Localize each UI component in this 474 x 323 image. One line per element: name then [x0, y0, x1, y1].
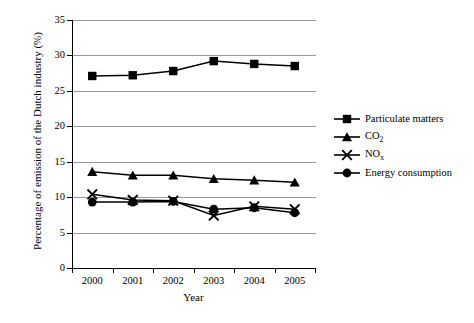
data-point-filled-square [291, 62, 299, 70]
data-point-filled-circle [128, 198, 137, 207]
x-axis-tick [194, 268, 195, 273]
legend-item[interactable]: Particulate matters [333, 110, 452, 128]
y-axis-tick-label: 30 [55, 50, 66, 61]
data-point-filled-square [169, 67, 177, 75]
emission-line-chart: Percentage of emission of the Dutch indu… [0, 0, 474, 323]
legend-marker-filled-circle [333, 165, 361, 181]
data-point-filled-circle [169, 197, 178, 206]
x-axis-tick-label: 2002 [163, 276, 184, 287]
x-axis-tick-label: 2004 [244, 276, 265, 287]
legend-item-label: Energy consumption [365, 168, 452, 179]
series-line [92, 172, 295, 183]
x-axis-title: Year [72, 291, 315, 303]
legend-item[interactable]: CO2 [333, 128, 452, 146]
data-point-filled-square [88, 72, 96, 80]
legend-marker-cross-x [333, 147, 361, 163]
x-axis-tick-label: 2005 [284, 276, 305, 287]
x-axis-tick-label: 2000 [82, 276, 103, 287]
data-point-filled-square [250, 60, 258, 68]
x-axis-tick [113, 268, 114, 273]
chart-legend: Particulate mattersCO2NOxEnergy consumpt… [333, 110, 452, 182]
legend-item-label: CO2 [365, 131, 383, 144]
x-axis-tick [234, 268, 235, 273]
x-axis-tick [72, 268, 73, 273]
x-axis-tick [275, 268, 276, 273]
data-point-filled-square [210, 57, 218, 65]
y-axis-tick-label: 15 [55, 156, 66, 167]
series-0 [88, 57, 299, 80]
data-point-filled-circle [250, 203, 259, 212]
y-axis-tick-label: 10 [55, 192, 66, 203]
x-axis-tick-label: 2001 [122, 276, 143, 287]
x-axis-tick-label: 2003 [203, 276, 224, 287]
series-line [92, 61, 295, 76]
y-axis-tick-label: 5 [60, 227, 65, 238]
data-point-filled-circle [209, 205, 218, 214]
x-axis-tick [153, 268, 154, 273]
data-point-filled-circle [290, 208, 299, 217]
legend-item[interactable]: Energy consumption [333, 164, 452, 182]
legend-item-label: NOx [365, 149, 384, 162]
plot-area: 05101520253035 200020012002200320042005 [72, 20, 315, 268]
y-axis-tick-label: 20 [55, 121, 66, 132]
series-layer [72, 20, 315, 268]
x-axis-tick [315, 268, 316, 273]
y-axis-title: Percentage of emission of the Dutch indu… [31, 26, 43, 256]
legend-marker-filled-triangle [333, 129, 361, 145]
legend-item[interactable]: NOx [333, 146, 452, 164]
legend-item-label: Particulate matters [365, 114, 443, 125]
series-1 [87, 167, 300, 187]
y-axis-tick-label: 25 [55, 86, 66, 97]
data-point-filled-circle [88, 198, 97, 207]
data-point-filled-square [129, 71, 137, 79]
data-point-filled-circle [343, 169, 352, 178]
legend-marker-filled-square [333, 111, 361, 127]
y-axis-tick-label: 0 [60, 263, 65, 274]
y-axis-tick-label: 35 [55, 15, 66, 26]
data-point-filled-square [343, 115, 351, 123]
